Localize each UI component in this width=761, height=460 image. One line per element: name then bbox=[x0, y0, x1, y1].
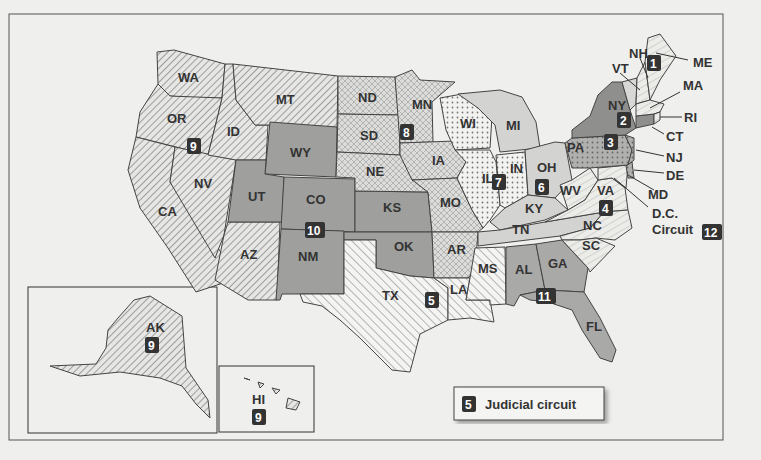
label-nj: NJ bbox=[666, 150, 683, 165]
label-nm: NM bbox=[298, 249, 318, 264]
badge-circuit-2: 2 bbox=[617, 112, 631, 128]
label-dc-circuit: Circuit bbox=[652, 222, 694, 237]
badge-circuit-9-ak: 9 bbox=[145, 337, 159, 353]
badge-circuit-7: 7 bbox=[492, 174, 506, 190]
svg-text:3: 3 bbox=[607, 136, 614, 150]
label-mn: MN bbox=[412, 97, 432, 112]
label-nv: NV bbox=[194, 176, 212, 191]
label-la: LA bbox=[450, 282, 468, 297]
label-il: IL bbox=[482, 171, 494, 186]
legend-label: Judicial circuit bbox=[485, 397, 577, 412]
label-ia: IA bbox=[432, 153, 446, 168]
label-wi: WI bbox=[460, 116, 476, 131]
svg-text:6: 6 bbox=[538, 181, 545, 195]
label-fl: FL bbox=[586, 319, 602, 334]
label-ks: KS bbox=[383, 200, 401, 215]
label-co: CO bbox=[306, 192, 326, 207]
label-al: AL bbox=[515, 262, 532, 277]
badge-circuit-9: 9 bbox=[187, 138, 201, 154]
label-ne: NE bbox=[366, 164, 384, 179]
badge-circuit-3: 3 bbox=[604, 134, 618, 150]
label-ok: OK bbox=[394, 239, 414, 254]
label-de: DE bbox=[666, 168, 684, 183]
label-ri: RI bbox=[684, 110, 697, 125]
label-wa: WA bbox=[178, 70, 200, 85]
state-nm[interactable] bbox=[276, 229, 344, 300]
label-nd: ND bbox=[358, 90, 377, 105]
svg-text:1: 1 bbox=[650, 57, 657, 71]
label-ga: GA bbox=[548, 256, 568, 271]
label-dc: D.C. bbox=[652, 206, 678, 221]
label-ar: AR bbox=[447, 242, 466, 257]
label-ny: NY bbox=[608, 98, 626, 113]
label-tn: TN bbox=[512, 222, 529, 237]
label-or: OR bbox=[167, 111, 187, 126]
label-va: VA bbox=[597, 183, 615, 198]
label-wv: WV bbox=[560, 183, 581, 198]
svg-text:12: 12 bbox=[704, 226, 718, 240]
badge-circuit-11: 11 bbox=[536, 288, 556, 304]
svg-text:2: 2 bbox=[620, 114, 627, 128]
label-me: ME bbox=[693, 55, 713, 70]
circuit-map: WA OR CA ID NV MT AZ WY UT CO NM ND SD N… bbox=[0, 0, 761, 460]
label-in: IN bbox=[510, 161, 523, 176]
svg-text:9: 9 bbox=[190, 140, 197, 154]
label-sd: SD bbox=[360, 128, 378, 143]
label-ak: AK bbox=[146, 320, 165, 335]
svg-text:4: 4 bbox=[602, 202, 609, 216]
badge-circuit-5: 5 bbox=[425, 292, 439, 308]
label-ms: MS bbox=[478, 261, 498, 276]
svg-text:5: 5 bbox=[428, 294, 435, 308]
badge-circuit-10: 10 bbox=[305, 222, 325, 238]
label-ct: CT bbox=[666, 129, 683, 144]
svg-text:9: 9 bbox=[148, 339, 155, 353]
label-mo: MO bbox=[440, 195, 461, 210]
svg-text:5: 5 bbox=[465, 398, 472, 412]
label-nh: NH bbox=[629, 46, 648, 61]
label-pa: PA bbox=[567, 140, 585, 155]
label-ut: UT bbox=[248, 189, 265, 204]
label-wy: WY bbox=[290, 145, 311, 160]
label-hi: HI bbox=[252, 392, 265, 407]
state-ri[interactable] bbox=[654, 112, 660, 124]
badge-circuit-6: 6 bbox=[535, 179, 549, 195]
svg-text:9: 9 bbox=[255, 411, 262, 425]
label-ca: CA bbox=[158, 204, 177, 219]
label-sc: SC bbox=[582, 238, 601, 253]
label-mt: MT bbox=[276, 92, 295, 107]
badge-circuit-1: 1 bbox=[647, 55, 661, 71]
label-ky: KY bbox=[525, 201, 543, 216]
svg-text:7: 7 bbox=[495, 176, 502, 190]
label-tx: TX bbox=[382, 288, 399, 303]
svg-text:8: 8 bbox=[403, 126, 410, 140]
label-oh: OH bbox=[537, 160, 557, 175]
badge-circuit-8: 8 bbox=[400, 124, 414, 140]
hawaii-inset bbox=[219, 366, 314, 432]
svg-text:10: 10 bbox=[307, 224, 321, 238]
badge-circuit-12: 12 bbox=[702, 224, 722, 240]
label-vt: VT bbox=[612, 61, 629, 76]
label-id: ID bbox=[227, 124, 240, 139]
label-md: MD bbox=[648, 187, 668, 202]
legend: 5 Judicial circuit bbox=[454, 387, 604, 420]
svg-text:11: 11 bbox=[538, 290, 551, 304]
label-ma: MA bbox=[683, 78, 704, 93]
badge-circuit-9-hi: 9 bbox=[252, 409, 266, 425]
label-mi: MI bbox=[506, 118, 520, 133]
label-az: AZ bbox=[240, 247, 257, 262]
badge-circuit-4: 4 bbox=[599, 200, 613, 216]
label-nc: NC bbox=[583, 218, 602, 233]
